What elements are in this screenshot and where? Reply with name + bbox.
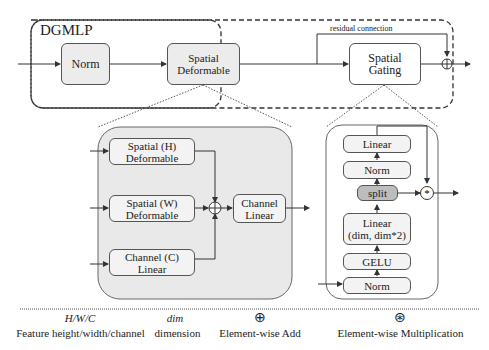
residual-label: residual connection bbox=[330, 24, 392, 33]
norm-box: Norm bbox=[61, 43, 110, 85]
spatial-h-box: Spatial (H) Deformable bbox=[109, 138, 195, 165]
legend-text-add: Element-wise Add bbox=[210, 327, 310, 339]
add-icon: ⊕ bbox=[250, 309, 270, 326]
spatial-gating-box: Spatial Gating bbox=[349, 43, 421, 85]
gelu-box: GELU bbox=[343, 253, 411, 270]
split-box: split bbox=[357, 185, 398, 201]
legend-text-hwc: Feature height/width/channel bbox=[8, 327, 153, 339]
legend-symbol-hwc: H/W/C bbox=[60, 312, 100, 324]
linear-top-box: Linear bbox=[343, 135, 411, 153]
dgmlp-diagram: * DGMLP residual connection Norm Spatial… bbox=[0, 0, 489, 350]
legend-symbol-dim: dim bbox=[160, 312, 190, 324]
multiply-icon: ⊛ bbox=[390, 309, 410, 326]
norm-bottom-box: Norm bbox=[343, 277, 411, 294]
norm-mid-box: Norm bbox=[343, 161, 411, 179]
linear-dim-box: Linear (dim, dim*2) bbox=[343, 213, 411, 245]
channel-c-box: Channel (C) Linear bbox=[109, 249, 195, 276]
dgmlp-title: DGMLP bbox=[40, 22, 93, 39]
channel-linear-box: Channel Linear bbox=[233, 194, 286, 223]
legend-text-dim: dimension bbox=[150, 327, 205, 339]
spatial-deformable-box: Spatial Deformable bbox=[167, 43, 240, 85]
svg-text:*: * bbox=[424, 187, 430, 199]
legend-text-multiply: Element-wise Multiplication bbox=[318, 327, 483, 339]
spatial-w-box: Spatial (W) Deformable bbox=[109, 195, 195, 222]
